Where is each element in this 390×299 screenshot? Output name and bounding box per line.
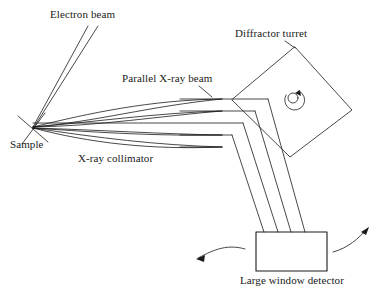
label-electron-beam: Electron beam (50, 8, 115, 20)
xray-geometry-diagram: Electron beam Diffractor turret Parallel… (0, 0, 390, 299)
parallel-xray-beams (33, 99, 268, 147)
reflected-beams (232, 99, 305, 232)
detector-right-arrow (333, 227, 369, 252)
diffractor-turret-body (232, 47, 352, 157)
rotation-arrow-icon (285, 90, 305, 110)
label-leader-lines (199, 41, 295, 97)
label-sample: Sample (10, 138, 44, 150)
detector-body (256, 232, 327, 271)
label-xray-collimator: X-ray collimator (78, 152, 153, 164)
electron-beam-rays (33, 26, 98, 127)
label-parallel-xray-beam: Parallel X-ray beam (122, 72, 212, 84)
detector-left-arrow (196, 247, 245, 262)
label-diffractor-turret: Diffractor turret (235, 27, 307, 39)
label-large-window-detector: Large window detector (240, 274, 344, 286)
diagram-canvas (0, 0, 390, 299)
leader-parallel-beam (199, 86, 212, 97)
leader-turret (285, 41, 295, 48)
